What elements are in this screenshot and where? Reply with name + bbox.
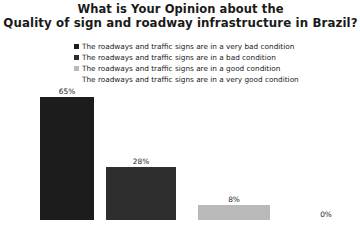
bar-good[interactable] [198,205,270,220]
bar-value-label-good: 8% [198,195,270,204]
bar-value-label-very-bad: 65% [40,87,94,96]
bar-very-bad[interactable] [40,97,94,220]
plot-area: 65% 28% 8% 0% [0,0,361,241]
bar-chart-figure: What is Your Opinion about the Quality o… [0,0,361,241]
bar-value-label-very-good: 0% [290,210,361,219]
bar-bad[interactable] [106,167,176,220]
bar-value-label-bad: 28% [106,157,176,166]
